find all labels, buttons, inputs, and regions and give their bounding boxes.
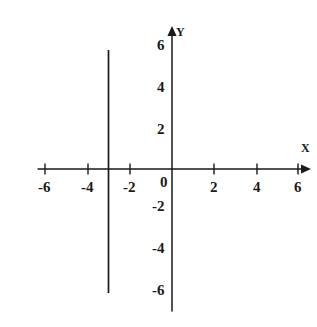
origin-label: 0 xyxy=(160,175,168,190)
x-tick-label--6: -6 xyxy=(38,180,51,195)
y-tick-label-4: 4 xyxy=(157,80,165,95)
x-tick-label-6: 6 xyxy=(294,180,302,195)
y-tick-label--4: -4 xyxy=(152,241,165,256)
y-axis-label: Y xyxy=(176,26,185,38)
y-tick-label-2: 2 xyxy=(157,122,165,137)
y-tick-label--2: -2 xyxy=(152,199,165,214)
x-tick-label--4: -4 xyxy=(81,180,94,195)
y-tick-label--6: -6 xyxy=(152,283,165,298)
x-tick-label--2: -2 xyxy=(123,180,136,195)
x-tick-label-4: 4 xyxy=(253,180,261,195)
graph-figure: -6 -4 -2 2 4 6 0 6 4 2 -2 -4 -6 X Y xyxy=(0,0,317,327)
x-tick-label-2: 2 xyxy=(210,180,218,195)
y-tick-label-6: 6 xyxy=(157,38,165,53)
x-axis-label: X xyxy=(301,142,310,154)
x-axis-arrowhead xyxy=(301,164,311,173)
